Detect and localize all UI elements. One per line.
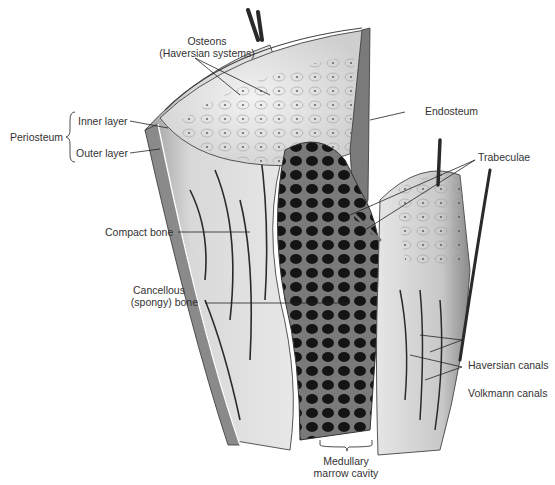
outer-layer-label: Outer layer [76, 147, 128, 159]
compact-bone-label: Compact bone [105, 226, 173, 238]
trabeculae-label: Trabeculae [478, 151, 530, 163]
osteons-label: Osteons (Haversian systems) [152, 35, 262, 59]
periosteum-label: Periosteum [10, 131, 63, 143]
bone-illustration [0, 0, 555, 485]
medullary-cavity-label: Medullary marrow cavity [296, 455, 396, 479]
haversian-canals-label: Haversian canals [468, 359, 549, 371]
volkmann-canals-label: Volkmann canals [468, 387, 547, 399]
cancellous-bone-label: Cancellous (spongy) bone [120, 284, 198, 308]
inner-layer-label: Inner layer [78, 115, 128, 127]
endosteum-label: Endosteum [425, 105, 478, 117]
